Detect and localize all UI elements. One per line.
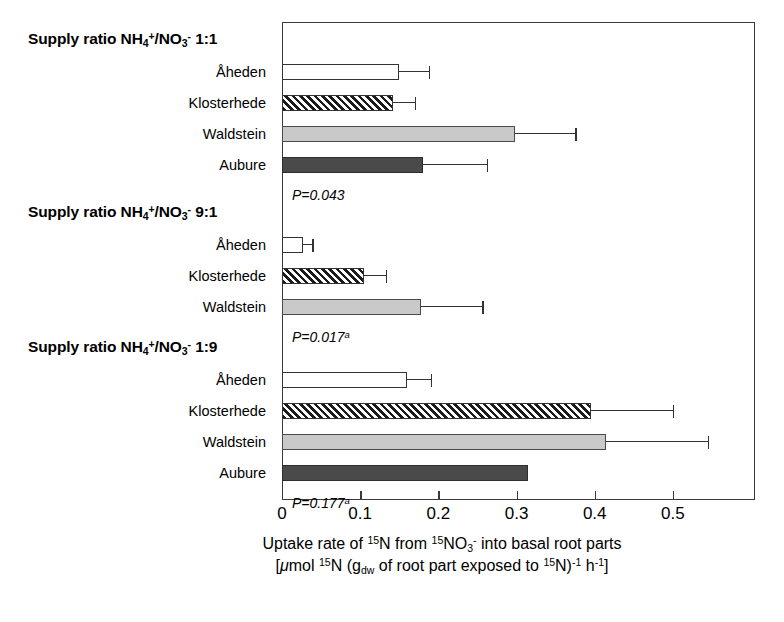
bar-plot-area: [282, 430, 755, 454]
bar-row-label: Aubure: [0, 461, 274, 485]
bar-row: Klosterhede: [0, 264, 784, 288]
error-bar-whisker: [606, 441, 708, 442]
bar-plot-area: [282, 91, 755, 115]
bar-plot-area: [282, 368, 755, 392]
error-bar-cap: [482, 301, 483, 314]
error-bar-cap: [708, 436, 709, 449]
group-header-label: Supply ratio NH4+/NO3- 9:1: [0, 203, 272, 222]
bar-klosterhede: [282, 403, 591, 419]
bar-klosterhede: [282, 268, 364, 284]
bar-row: Waldstein: [0, 430, 784, 454]
error-bar-whisker: [407, 379, 430, 380]
error-bar-cap: [431, 374, 432, 387]
bar-row-label: Klosterhede: [0, 91, 274, 115]
error-bar-cap: [312, 239, 313, 252]
x-axis-tick: [517, 491, 518, 500]
bar-row: Waldstein: [0, 122, 784, 146]
bar-row: Klosterhede: [0, 399, 784, 423]
bar-row: Åheden: [0, 60, 784, 84]
x-axis-tick: [595, 491, 596, 500]
bar-row: Åheden: [0, 368, 784, 392]
bar-aubure: [282, 157, 423, 173]
error-bar-cap: [575, 128, 576, 141]
error-bar-cap: [673, 405, 674, 418]
x-axis-tick: [360, 491, 361, 500]
error-bar-cap: [415, 97, 416, 110]
x-axis-caption-line2: [μmol 15N (gdw of root part exposed to 1…: [112, 555, 772, 577]
bar-chart-figure: Supply ratio NH4+/NO3- 1:1ÅhedenKlosterh…: [0, 0, 784, 622]
bar-plot-area: [282, 461, 755, 485]
error-bar-whisker: [303, 244, 312, 245]
bar-waldstein: [282, 126, 515, 142]
error-bar-cap: [487, 159, 488, 172]
error-bar-whisker: [393, 102, 415, 103]
bar-plot-area: [282, 60, 755, 84]
bar-plot-area: [282, 153, 755, 177]
bar-row-label: Waldstein: [0, 122, 274, 146]
bar-group: Supply ratio NH4+/NO3- 1:1ÅhedenKlosterh…: [0, 22, 784, 218]
bar-plot-area: [282, 122, 755, 146]
bar-row: Aubure: [0, 461, 784, 485]
bar-row-label: Åheden: [0, 368, 274, 392]
bar-klosterhede: [282, 95, 393, 111]
bar-row: Åheden: [0, 233, 784, 257]
error-bar-whisker: [515, 133, 575, 134]
x-axis-tick-label: 0.1: [330, 504, 390, 524]
error-bar-whisker: [421, 306, 482, 307]
bar-row-label: Åheden: [0, 233, 274, 257]
bar-row-label: Waldstein: [0, 430, 274, 454]
error-bar-whisker: [364, 275, 386, 276]
bar-group: Supply ratio NH4+/NO3- 1:9ÅhedenKlosterh…: [0, 330, 784, 526]
x-axis-tick: [282, 491, 283, 500]
bar-row-label: Åheden: [0, 60, 274, 84]
bar-waldstein: [282, 434, 606, 450]
x-axis-tick-label: 0.2: [408, 504, 468, 524]
x-axis-tick-label: 0: [252, 504, 312, 524]
bar-plot-area: [282, 264, 755, 288]
x-axis-tick: [438, 491, 439, 500]
bar-row-label: Waldstein: [0, 295, 274, 319]
error-bar-whisker: [591, 410, 673, 411]
error-bar-whisker: [423, 164, 487, 165]
error-bar-whisker: [399, 71, 429, 72]
bar-row-label: Klosterhede: [0, 399, 274, 423]
bar-row: Waldstein: [0, 295, 784, 319]
x-axis-tick-label: 0.3: [487, 504, 547, 524]
error-bar-cap: [429, 66, 430, 79]
x-axis: 00.10.20.30.40.5: [282, 500, 755, 501]
bar-plot-area: [282, 399, 755, 423]
bar-åheden: [282, 372, 407, 388]
error-bar-cap: [386, 270, 387, 283]
x-axis-tick: [673, 491, 674, 500]
x-axis-caption-line1: Uptake rate of 15N from 15NO3- into basa…: [262, 535, 621, 552]
bar-plot-area: [282, 233, 755, 257]
bar-row: Klosterhede: [0, 91, 784, 115]
bar-plot-area: [282, 295, 755, 319]
bar-waldstein: [282, 299, 421, 315]
x-axis-caption: Uptake rate of 15N from 15NO3- into basa…: [112, 533, 772, 578]
bar-row-label: Klosterhede: [0, 264, 274, 288]
bar-åheden: [282, 237, 303, 253]
group-header-label: Supply ratio NH4+/NO3- 1:9: [0, 338, 272, 357]
bar-aubure: [282, 465, 528, 481]
group-header-label: Supply ratio NH4+/NO3- 1:1: [0, 30, 272, 49]
bar-row-label: Aubure: [0, 153, 274, 177]
bar-row: Aubure: [0, 153, 784, 177]
x-axis-tick-label: 0.4: [565, 504, 625, 524]
bar-åheden: [282, 64, 399, 80]
x-axis-tick-label: 0.5: [643, 504, 703, 524]
